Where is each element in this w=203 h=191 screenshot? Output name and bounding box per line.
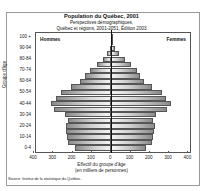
bar-women-70-74 <box>111 68 137 73</box>
bar-men-10-14 <box>67 134 111 139</box>
x-tick-label: 0 <box>109 155 112 160</box>
bar-women-0-4 <box>111 145 146 150</box>
bar-women-50-54 <box>111 90 162 95</box>
bar-women-35-39 <box>111 107 167 112</box>
bar-men-35-39 <box>54 107 111 112</box>
x-tick-mark <box>130 151 131 153</box>
bar-men-25-29 <box>68 118 111 123</box>
x-tick-mark <box>72 151 73 153</box>
y-axis-title: Groupe d'âge <box>2 61 7 88</box>
y-tick-label: 60-64 <box>19 78 31 83</box>
y-tick-label: 10-14 <box>19 134 31 139</box>
x-tick-label: 400 <box>184 155 192 160</box>
bar-women-25-29 <box>111 118 153 123</box>
bar-women-10-14 <box>111 134 153 139</box>
chart-title: Population du Québec, 2001 <box>0 13 203 19</box>
x-tick-mark <box>149 151 150 153</box>
x-tick-label: 100 <box>87 155 95 160</box>
x-tick-label: 300 <box>48 155 56 160</box>
x-axis-title-2: (en milliers de personnes) <box>0 168 203 173</box>
plot-area: Hommes Femmes <box>35 32 191 153</box>
bar-women-55-59 <box>111 84 152 89</box>
bar-women-20-24 <box>111 123 155 128</box>
bar-men-15-19 <box>66 129 111 134</box>
y-tick-label: 80-84 <box>19 56 31 61</box>
bar-women-40-44 <box>111 101 171 106</box>
bar-men-0-4 <box>75 145 111 150</box>
bar-men-80-84 <box>103 57 111 62</box>
bar-men-60-64 <box>80 79 111 84</box>
bar-men-75-79 <box>97 62 111 67</box>
x-tick-mark <box>187 151 188 153</box>
center-axis-line <box>111 30 112 153</box>
bar-men-50-54 <box>61 90 111 95</box>
x-tick-mark <box>33 151 34 153</box>
bar-men-65-69 <box>85 73 111 78</box>
x-tick-label: 200 <box>145 155 153 160</box>
x-axis-title-1: Effectif du groupe d'âge <box>0 162 203 167</box>
source-note: Source: Institut de la statistique du Qu… <box>8 177 81 181</box>
chart-subtitle-1: Perspectives démographiques, <box>0 20 203 25</box>
x-tick-mark <box>168 151 169 153</box>
y-tick-label: 30-34 <box>19 112 31 117</box>
bar-women-65-69 <box>111 73 140 78</box>
y-tick-label: 0-4 <box>24 145 31 150</box>
x-tick-mark <box>91 151 92 153</box>
bar-women-75-79 <box>111 62 131 67</box>
bar-men-45-49 <box>56 96 111 101</box>
x-tick-label: 400 <box>29 155 37 160</box>
bar-women-60-64 <box>111 79 144 84</box>
bar-men-70-74 <box>90 68 111 73</box>
bar-women-15-19 <box>111 129 154 134</box>
legend-men: Hommes <box>40 37 60 42</box>
y-tick-label: 90-94 <box>19 45 31 50</box>
bar-women-85-89 <box>111 51 119 56</box>
y-tick-label: 70-74 <box>19 67 31 72</box>
bar-men-20-24 <box>66 123 111 128</box>
x-tick-label: 300 <box>164 155 172 160</box>
bar-women-45-49 <box>111 96 166 101</box>
bar-women-5-9 <box>111 140 152 145</box>
x-tick-label: 200 <box>68 155 76 160</box>
y-tick-label: 100 + <box>20 34 31 39</box>
y-tick-label: 40-44 <box>19 101 31 106</box>
bar-men-30-34 <box>65 112 111 117</box>
bar-women-30-34 <box>111 112 156 117</box>
x-tick-mark <box>110 151 111 153</box>
y-tick-label: 20-24 <box>19 123 31 128</box>
legend-women: Femmes <box>167 37 186 42</box>
x-tick-label: 100 <box>126 155 134 160</box>
bar-men-40-44 <box>51 101 111 106</box>
bar-men-5-9 <box>68 140 111 145</box>
y-tick-label: 50-54 <box>19 89 31 94</box>
chart-subtitle-2: Québec et régions, 2001-2051, Édition 20… <box>0 26 203 31</box>
x-tick-mark <box>52 151 53 153</box>
bar-women-80-84 <box>111 57 125 62</box>
bar-men-55-59 <box>71 84 111 89</box>
